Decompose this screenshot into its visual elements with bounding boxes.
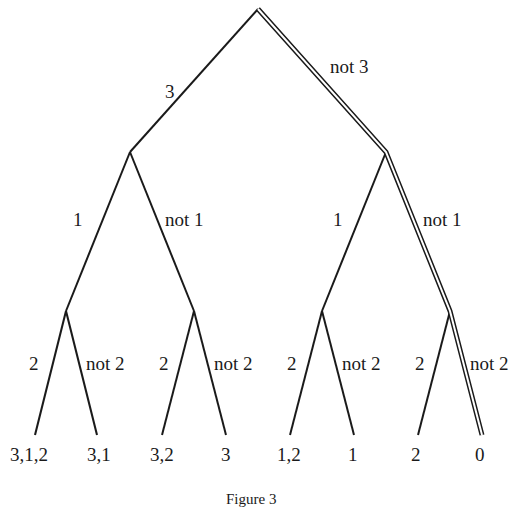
- leaf-label: 2: [411, 445, 421, 464]
- leaf-label: 0: [475, 445, 485, 464]
- edge-3-1-2: [35, 311, 66, 435]
- edge-label-not3: not 3: [330, 57, 369, 76]
- leaf-label: 3: [221, 445, 231, 464]
- edge-3: [130, 9, 258, 152]
- edge-label-ll-not2: not 2: [86, 354, 125, 373]
- edge-label-l-not1: not 1: [165, 210, 204, 229]
- figure-caption: Figure 3: [226, 492, 276, 507]
- edge-label-rr-2: 2: [415, 354, 425, 373]
- leaf-label: 3,2: [150, 445, 174, 464]
- edge-3-not1: [130, 152, 194, 311]
- edge-label-r-not1: not 1: [423, 210, 462, 229]
- edge-not3-1: [322, 152, 386, 311]
- edge-label-lr-2: 2: [159, 354, 169, 373]
- edge-label-rr-not2: not 2: [470, 354, 509, 373]
- leaf-label: 1,2: [277, 445, 301, 464]
- edge-label-r-1: 1: [333, 210, 343, 229]
- edge-3-1: [66, 152, 130, 311]
- leaf-label: 3,1,2: [10, 445, 48, 464]
- edge-label-ll-2: 2: [29, 354, 39, 373]
- edge-label-rl-2: 2: [287, 354, 297, 373]
- edge-label-l-1: 1: [73, 210, 83, 229]
- leaf-label: 3,1: [87, 445, 111, 464]
- edge-label-rl-not2: not 2: [342, 354, 381, 373]
- edge-label-3: 3: [165, 82, 175, 101]
- edge-label-lr-not2: not 2: [214, 354, 253, 373]
- leaf-label: 1: [348, 445, 358, 464]
